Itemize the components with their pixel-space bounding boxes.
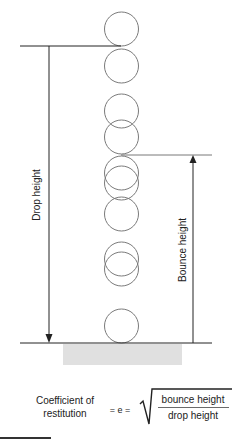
- ball-circle: [105, 166, 139, 200]
- formula-equals-e: = e =: [110, 405, 131, 415]
- floor-surface: [63, 344, 182, 365]
- ball-circle: [105, 242, 139, 276]
- formula-term-line2: restitution: [43, 408, 86, 419]
- bounce-height-label: Bounce height: [177, 218, 188, 282]
- ball-circle: [105, 156, 139, 190]
- bounce-height-arrowhead-icon: [190, 155, 197, 163]
- ball-circle: [105, 309, 139, 343]
- formula-term-line1: Coefficient of: [36, 395, 94, 406]
- drop-height-label: Drop height: [31, 169, 42, 221]
- formula-denominator: drop height: [168, 410, 218, 421]
- formula-numerator: bounce height: [162, 394, 225, 405]
- ball-circle: [105, 12, 139, 46]
- bounce-diagram: Drop height Bounce height Coefficient of…: [0, 0, 236, 442]
- ball-circle: [105, 49, 139, 83]
- ball-circle: [105, 252, 139, 286]
- restitution-formula: Coefficient of restitution = e = bounce …: [36, 389, 232, 424]
- drop-height-arrowhead-icon: [46, 334, 53, 343]
- ball-circle: [105, 197, 139, 231]
- ball-circle: [105, 120, 139, 154]
- ball-positions: [105, 12, 139, 343]
- ball-circle: [105, 94, 139, 128]
